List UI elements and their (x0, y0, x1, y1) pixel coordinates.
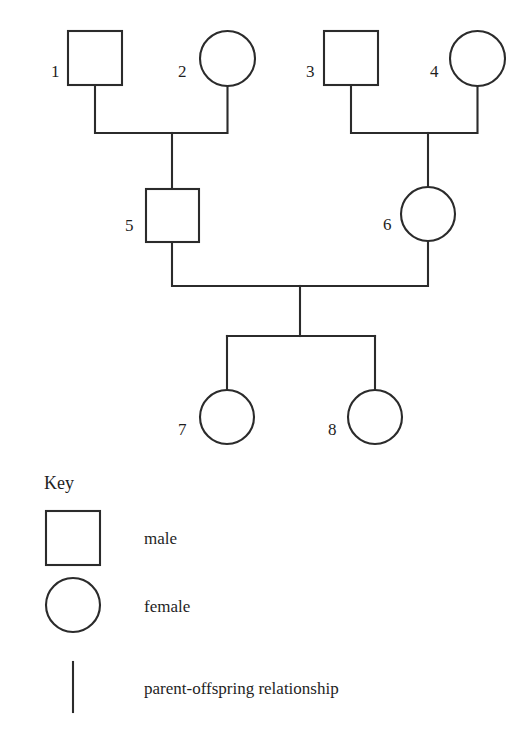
key-square-symbol (46, 511, 100, 565)
individual-4-circle[interactable] (450, 31, 505, 86)
individual-6-label: 6 (383, 216, 392, 233)
key-label-male: male (144, 530, 177, 547)
mating-line-1-2 (95, 85, 228, 133)
key-title: Key (44, 474, 74, 492)
individual-2-label: 2 (178, 63, 187, 80)
individual-2-circle[interactable] (200, 31, 255, 86)
individual-6-circle[interactable] (401, 187, 455, 241)
individual-5-label: 5 (125, 217, 134, 234)
key-label-relationship: parent-offspring relationship (144, 680, 339, 697)
pedigree-canvas (0, 0, 531, 739)
individual-5-square[interactable] (146, 189, 199, 242)
individual-3-label: 3 (306, 63, 315, 80)
key-label-female: female (144, 598, 190, 615)
mating-line-5-6 (172, 241, 428, 286)
individual-8-label: 8 (328, 421, 337, 438)
individual-7-label: 7 (178, 421, 187, 438)
mating-line-3-4 (351, 85, 478, 133)
individual-7-circle[interactable] (200, 390, 254, 444)
pedigree-diagram: 1 2 3 4 5 6 7 8 Key male female parent-o… (0, 0, 531, 739)
individual-1-label: 1 (51, 63, 60, 80)
individual-1-square[interactable] (68, 31, 122, 85)
individual-4-label: 4 (430, 63, 439, 80)
key-circle-symbol (46, 578, 100, 632)
individual-3-square[interactable] (324, 31, 378, 85)
individual-8-circle[interactable] (348, 390, 402, 444)
